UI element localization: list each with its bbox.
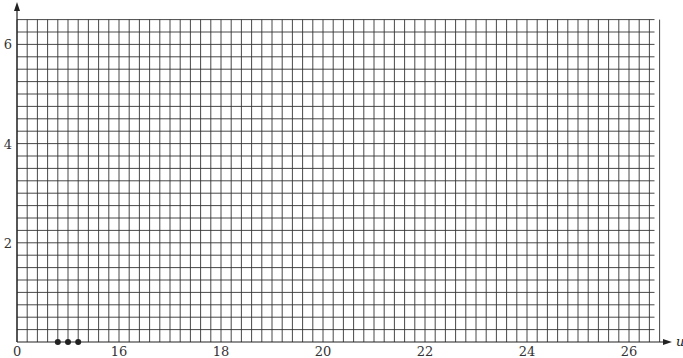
y-tick-labels: 246	[4, 37, 12, 250]
x-tick-label: 18	[213, 344, 230, 358]
x-tick-label: 20	[315, 344, 332, 358]
x-axis-arrow-icon	[663, 339, 672, 345]
y-tick-label: 2	[4, 236, 12, 251]
x-axis-label: u	[676, 334, 683, 349]
data-points	[55, 339, 81, 345]
origin-label: 0	[13, 344, 21, 358]
x-tick-label: 16	[111, 344, 128, 358]
chart-canvas: u 0 161820222426 246	[0, 0, 683, 358]
x-tick-label: 22	[417, 344, 434, 358]
grid-lines	[17, 20, 660, 342]
y-axis-arrow-icon	[14, 2, 20, 11]
x-tick-labels: 161820222426	[111, 344, 638, 358]
data-point-marker	[75, 339, 81, 345]
y-tick-label: 4	[4, 137, 12, 152]
data-point-marker	[55, 339, 61, 345]
x-tick-label: 26	[621, 344, 638, 358]
x-tick-label: 24	[519, 344, 536, 358]
data-point-marker	[65, 339, 71, 345]
y-tick-label: 6	[4, 37, 12, 52]
